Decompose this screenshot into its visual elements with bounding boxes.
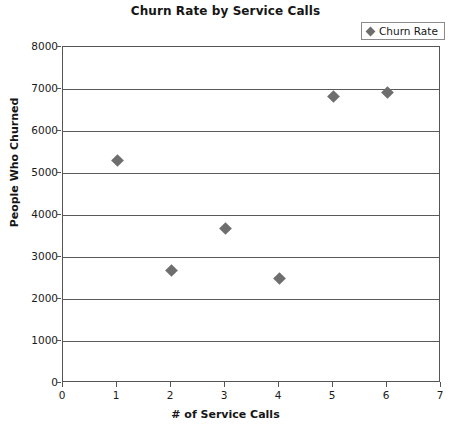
y-axis-tick-mark bbox=[56, 88, 61, 89]
x-axis-tick-label: 6 bbox=[371, 390, 401, 401]
chart-legend[interactable]: Churn Rate bbox=[361, 22, 445, 40]
gridline bbox=[63, 299, 439, 300]
data-point bbox=[111, 154, 124, 167]
x-axis-tick-label: 7 bbox=[425, 390, 451, 401]
gridline bbox=[63, 215, 439, 216]
y-axis-tick-mark bbox=[56, 256, 61, 257]
x-axis-tick-mark bbox=[116, 382, 117, 387]
x-axis-tick-mark bbox=[332, 382, 333, 387]
data-point bbox=[381, 86, 394, 99]
gridline bbox=[63, 341, 439, 342]
y-axis-tick-marks bbox=[0, 46, 62, 382]
x-axis-tick-mark bbox=[170, 382, 171, 387]
gridline bbox=[63, 173, 439, 174]
gridline bbox=[63, 131, 439, 132]
x-axis-tick-mark bbox=[224, 382, 225, 387]
y-axis-tick-mark bbox=[56, 340, 61, 341]
data-point bbox=[273, 272, 286, 285]
x-axis-tick-label: 0 bbox=[47, 390, 77, 401]
y-axis-tick-mark bbox=[56, 172, 61, 173]
x-axis-tick-label: 5 bbox=[317, 390, 347, 401]
x-axis-tick-mark bbox=[386, 382, 387, 387]
legend-entry-label: Churn Rate bbox=[379, 26, 438, 37]
y-axis-tick-mark bbox=[56, 214, 61, 215]
plot-area bbox=[62, 46, 440, 382]
x-axis-tick-label: 4 bbox=[263, 390, 293, 401]
x-axis-ticks: 01234567 bbox=[62, 382, 440, 408]
x-axis-tick-mark bbox=[440, 382, 441, 387]
y-axis-tick-mark bbox=[56, 46, 61, 47]
data-point bbox=[219, 222, 232, 235]
x-axis-title: # of Service Calls bbox=[0, 408, 451, 421]
x-axis-tick-label: 3 bbox=[209, 390, 239, 401]
x-axis-tick-mark bbox=[278, 382, 279, 387]
y-axis-tick-mark bbox=[56, 382, 61, 383]
x-axis-tick-mark bbox=[62, 382, 63, 387]
diamond-marker-icon bbox=[366, 26, 376, 36]
scatter-chart: Churn Rate by Service Calls Churn Rate P… bbox=[0, 0, 451, 432]
y-axis-tick-mark bbox=[56, 130, 61, 131]
chart-title: Churn Rate by Service Calls bbox=[0, 4, 451, 18]
x-axis-tick-label: 1 bbox=[101, 390, 131, 401]
data-point bbox=[165, 264, 178, 277]
data-point bbox=[327, 90, 340, 103]
y-axis-tick-mark bbox=[56, 298, 61, 299]
x-axis-tick-label: 2 bbox=[155, 390, 185, 401]
gridline bbox=[63, 257, 439, 258]
